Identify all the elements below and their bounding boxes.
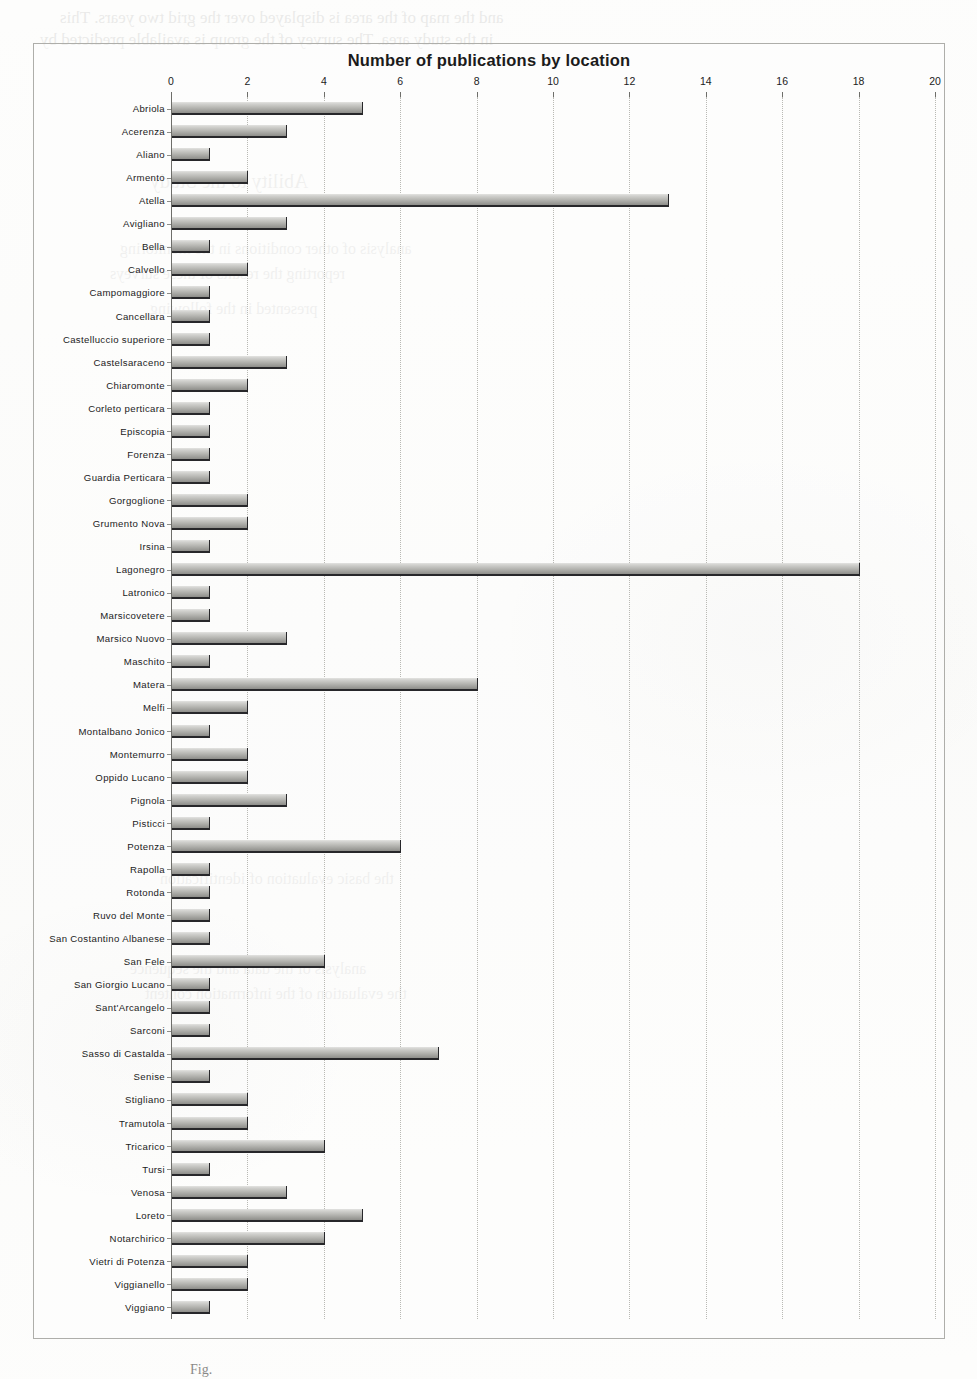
y-tick-mark — [167, 593, 171, 594]
category-label: Tricarico — [125, 1141, 165, 1152]
y-tick-mark — [167, 247, 171, 248]
category-label: Stigliano — [125, 1094, 165, 1105]
bar-row: Loreto — [171, 1204, 935, 1227]
bar — [172, 217, 287, 230]
y-tick-mark — [167, 939, 171, 940]
y-tick-mark — [167, 339, 171, 340]
bar-row: Melfi — [171, 696, 935, 719]
bar-row: Stigliano — [171, 1088, 935, 1111]
bar-row: Notarchirico — [171, 1227, 935, 1250]
gridline-20 — [935, 97, 937, 1319]
bar — [172, 725, 210, 738]
y-tick-mark — [167, 1238, 171, 1239]
bar-row: Ruvo del Monte — [171, 904, 935, 927]
y-tick-mark — [167, 132, 171, 133]
y-tick-mark — [167, 662, 171, 663]
category-label: Castelsaraceno — [93, 357, 165, 368]
bar — [172, 540, 210, 553]
category-label: Tursi — [142, 1164, 165, 1175]
bar — [172, 310, 210, 323]
bar-row: Cancellara — [171, 305, 935, 328]
bar — [172, 125, 287, 138]
bar — [172, 563, 860, 576]
category-label: Grumento Nova — [93, 518, 165, 529]
category-label: Guardia Perticara — [84, 472, 165, 483]
bar — [172, 1117, 248, 1130]
category-label: San Fele — [124, 956, 165, 967]
bar-row: Maschito — [171, 650, 935, 673]
category-label: Aliano — [136, 149, 165, 160]
bar-row: Castelluccio superiore — [171, 328, 935, 351]
category-label: Matera — [133, 679, 165, 690]
bar — [172, 402, 210, 415]
bar — [172, 494, 248, 507]
y-tick-mark — [167, 616, 171, 617]
category-label: Senise — [134, 1071, 165, 1082]
category-label: Episcopia — [120, 426, 165, 437]
category-label: Viggianello — [114, 1279, 165, 1290]
y-tick-mark — [167, 754, 171, 755]
y-tick-mark — [167, 454, 171, 455]
category-label: Chiaromonte — [106, 380, 165, 391]
x-tick-label-12: 12 — [624, 75, 636, 87]
bar-row: Pignola — [171, 789, 935, 812]
bar-row: Lagonegro — [171, 558, 935, 581]
category-label: Sarconi — [130, 1025, 165, 1036]
bar — [172, 817, 210, 830]
bar — [172, 194, 669, 207]
y-tick-mark — [167, 316, 171, 317]
category-label: Venosa — [131, 1187, 165, 1198]
category-label: Latronico — [122, 587, 165, 598]
category-label: Melfi — [143, 702, 165, 713]
bar-row: Tricarico — [171, 1135, 935, 1158]
bar-row: Aliano — [171, 143, 935, 166]
bar-row: San Costantino Albanese — [171, 927, 935, 950]
y-tick-mark — [167, 962, 171, 963]
x-tick-label-8: 8 — [474, 75, 480, 87]
bar-row: Atella — [171, 189, 935, 212]
category-label: Pignola — [131, 795, 165, 806]
y-tick-mark — [167, 1307, 171, 1308]
bar-row: Viggiano — [171, 1296, 935, 1319]
y-tick-mark — [167, 1100, 171, 1101]
bar — [172, 886, 210, 899]
bar-row: Sasso di Castalda — [171, 1042, 935, 1065]
category-label: Montemurro — [110, 749, 165, 760]
category-label: San Costantino Albanese — [49, 933, 165, 944]
bar-row: Forenza — [171, 443, 935, 466]
category-label: Viggiano — [125, 1302, 165, 1313]
y-tick-mark — [167, 224, 171, 225]
bar — [172, 148, 210, 161]
y-tick-mark — [167, 1192, 171, 1193]
bar-row: Potenza — [171, 835, 935, 858]
y-tick-mark — [167, 293, 171, 294]
bar — [172, 932, 210, 945]
category-label: Campomaggiore — [90, 287, 165, 298]
bar-row: Viggianello — [171, 1273, 935, 1296]
category-label: Lagonegro — [116, 564, 165, 575]
bar-row: Grumento Nova — [171, 512, 935, 535]
bar — [172, 863, 210, 876]
x-tick-label-2: 2 — [244, 75, 250, 87]
bar — [172, 1047, 439, 1060]
bar — [172, 748, 248, 761]
bar — [172, 1093, 248, 1106]
y-tick-mark — [167, 178, 171, 179]
y-tick-mark — [167, 547, 171, 548]
y-tick-mark — [167, 1215, 171, 1216]
bar-row: Montalbano Jonico — [171, 720, 935, 743]
bar — [172, 609, 210, 622]
bar-row: Acerenza — [171, 120, 935, 143]
bar-row: Tursi — [171, 1158, 935, 1181]
bar-row: Matera — [171, 673, 935, 696]
category-label: Sasso di Castalda — [82, 1048, 165, 1059]
y-tick-mark — [167, 500, 171, 501]
bar-rows: AbriolaAcerenzaAlianoArmentoAtellaAvigli… — [171, 97, 935, 1319]
y-tick-mark — [167, 892, 171, 893]
bar-row: Castelsaraceno — [171, 351, 935, 374]
bar — [172, 794, 287, 807]
category-label: Calvello — [128, 264, 165, 275]
category-label: San Giorgio Lucano — [74, 979, 165, 990]
bar — [172, 517, 248, 530]
bar-row: Episcopia — [171, 420, 935, 443]
